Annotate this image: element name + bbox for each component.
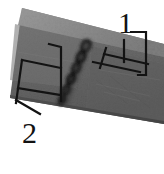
callout-label-1: 1 <box>118 8 133 38</box>
figure-canvas: 1 2 <box>0 0 164 174</box>
callout-label-2: 2 <box>22 118 37 148</box>
specimen-plate <box>10 8 164 124</box>
